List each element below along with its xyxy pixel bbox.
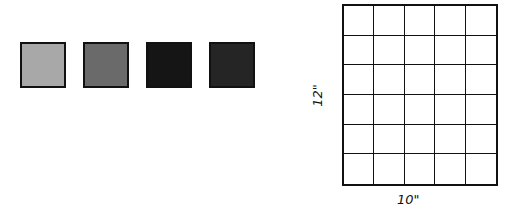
grid-cell xyxy=(435,6,465,36)
grid-cell xyxy=(374,125,404,155)
swatch-medium-gray xyxy=(83,42,129,88)
grid-cell xyxy=(374,95,404,125)
grid-cell xyxy=(466,6,496,36)
grid-cell xyxy=(344,95,374,125)
grid-cell xyxy=(405,95,435,125)
swatch-dark-textured xyxy=(209,42,255,88)
grid-cell xyxy=(435,36,465,66)
height-label: 12" xyxy=(310,84,325,107)
grid-cell xyxy=(435,125,465,155)
grid-cell xyxy=(466,36,496,66)
grid-cell xyxy=(344,125,374,155)
grid-cell xyxy=(344,65,374,95)
grid-cell xyxy=(466,125,496,155)
grid-cell xyxy=(344,36,374,66)
grid-cell xyxy=(374,36,404,66)
grid-cell xyxy=(466,95,496,125)
grid-cell xyxy=(374,65,404,95)
grid-cell xyxy=(435,65,465,95)
grid-cell xyxy=(405,36,435,66)
grid-cell xyxy=(405,6,435,36)
grid-cell xyxy=(374,154,404,184)
grid-cell xyxy=(435,95,465,125)
grid-cell xyxy=(405,65,435,95)
grid-cell xyxy=(466,154,496,184)
swatch-light-gray xyxy=(20,42,66,88)
width-label: 10" xyxy=(397,192,420,207)
grid-cell xyxy=(466,65,496,95)
grid-cell xyxy=(374,6,404,36)
grid-cell xyxy=(344,6,374,36)
grid-cell xyxy=(405,154,435,184)
measurement-grid xyxy=(342,4,498,186)
grid-cell xyxy=(344,154,374,184)
grid-cell xyxy=(435,154,465,184)
swatch-near-black xyxy=(146,42,192,88)
grid-cell xyxy=(405,125,435,155)
